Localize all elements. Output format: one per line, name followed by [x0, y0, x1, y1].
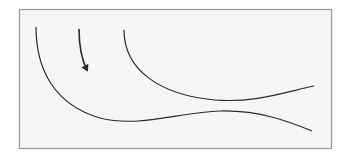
diagram-canvas — [0, 0, 347, 156]
diagram-panel — [20, 10, 332, 149]
